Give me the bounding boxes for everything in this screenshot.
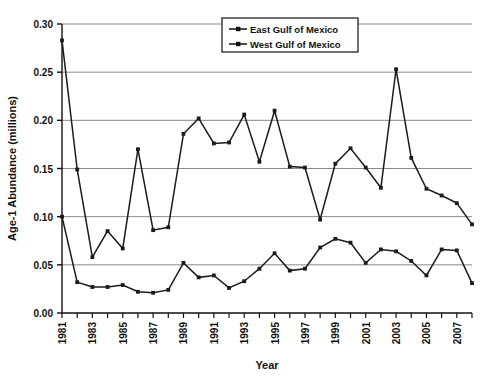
legend-marker: [236, 27, 240, 31]
data-point: [212, 142, 216, 146]
data-point: [136, 147, 140, 151]
x-tick-label: 1995: [270, 322, 281, 345]
data-point: [349, 146, 353, 150]
y-tick-label: 0.25: [34, 67, 54, 78]
data-point: [166, 288, 170, 292]
x-tick-label: 2007: [452, 322, 463, 345]
y-tick-label: 0.15: [34, 164, 54, 175]
legend-label: West Gulf of Mexico: [250, 39, 341, 50]
x-tick-label: 2003: [391, 322, 402, 345]
x-tick-label: 2001: [361, 322, 372, 345]
data-point: [60, 38, 64, 42]
data-point: [242, 279, 246, 283]
data-point: [182, 132, 186, 136]
data-point: [75, 280, 79, 284]
data-point: [409, 156, 413, 160]
data-point: [303, 166, 307, 170]
data-point: [288, 269, 292, 273]
data-point: [197, 275, 201, 279]
y-tick-label: 0.10: [34, 212, 54, 223]
legend-marker: [236, 42, 240, 46]
data-point: [212, 274, 216, 278]
data-point: [60, 215, 64, 219]
data-point: [197, 117, 201, 121]
x-axis-title: Year: [255, 359, 279, 371]
data-point: [318, 246, 322, 250]
data-point: [242, 113, 246, 117]
data-point: [318, 218, 322, 222]
y-tick-label: 0.30: [34, 19, 54, 30]
x-tick-label: 1997: [300, 322, 311, 345]
data-point: [273, 251, 277, 255]
data-point: [136, 290, 140, 294]
data-point: [227, 141, 231, 145]
data-point: [364, 261, 368, 265]
data-point: [455, 201, 459, 205]
chart-figure: 0.000.050.100.150.200.250.30 19811983198…: [0, 0, 495, 377]
y-axis-title: Age-1 Abundance (millions): [6, 96, 18, 241]
data-point: [440, 194, 444, 198]
data-point: [394, 67, 398, 71]
chart-legend: East Gulf of MexicoWest Gulf of Mexico: [222, 18, 358, 52]
line-chart: 0.000.050.100.150.200.250.30 19811983198…: [0, 0, 495, 377]
data-point: [379, 248, 383, 252]
x-tick-label: 1987: [148, 322, 159, 345]
data-point: [470, 281, 474, 285]
data-point: [425, 274, 429, 278]
y-tick-label: 0.20: [34, 115, 54, 126]
data-point: [166, 225, 170, 229]
data-point: [258, 160, 262, 164]
data-point: [409, 259, 413, 263]
y-tick-label: 0.05: [34, 260, 54, 271]
data-point: [455, 248, 459, 252]
data-point: [379, 186, 383, 190]
data-point: [440, 248, 444, 252]
data-point: [106, 229, 110, 233]
data-point: [303, 267, 307, 271]
x-tick-label: 1989: [178, 322, 189, 345]
data-point: [151, 291, 155, 295]
x-tick-label: 2005: [421, 322, 432, 345]
x-tick-label: 1981: [57, 322, 68, 345]
data-point: [121, 247, 125, 251]
data-point: [273, 109, 277, 113]
data-point: [227, 286, 231, 290]
data-point: [258, 267, 262, 271]
data-point: [333, 162, 337, 166]
data-point: [106, 285, 110, 289]
data-point: [470, 222, 474, 226]
x-tick-label: 1999: [330, 322, 341, 345]
data-point: [333, 237, 337, 241]
data-point: [349, 241, 353, 245]
x-tick-label: 1983: [87, 322, 98, 345]
data-point: [121, 283, 125, 287]
chart-background: [0, 0, 495, 377]
data-point: [364, 166, 368, 170]
x-tick-label: 1993: [239, 322, 250, 345]
data-point: [90, 285, 94, 289]
y-tick-label: 0.00: [34, 308, 54, 319]
data-point: [288, 165, 292, 169]
data-point: [75, 168, 79, 172]
data-point: [394, 249, 398, 253]
legend-label: East Gulf of Mexico: [250, 24, 338, 35]
x-tick-label: 1991: [209, 322, 220, 345]
data-point: [90, 255, 94, 259]
x-tick-label: 1985: [118, 322, 129, 345]
data-point: [151, 228, 155, 232]
data-point: [182, 261, 186, 265]
data-point: [425, 187, 429, 191]
